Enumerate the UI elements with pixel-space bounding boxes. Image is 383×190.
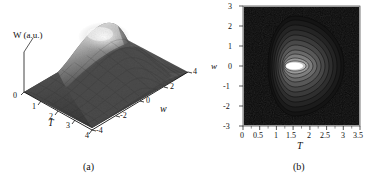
panel-a-surface-plot: W (a.u.) 0 1 2 3 4 T 4 2 0 -2 -4 w (a) [0,0,198,190]
tick-t-15: 1.5 [286,132,296,140]
tick-w-neg1: -1 [223,83,230,91]
panel-a-caption: (a) [83,162,94,172]
tick-w-neg2b: -2 [223,103,230,111]
tick-w-4: 4 [193,68,197,76]
x-axis-label-t-contour: T [297,141,303,150]
panel-b-contour-plot: 3 2 1 0 -1 -2 -3 w 0 0.5 1 1.5 2 2.5 3 3… [198,0,383,190]
tick-t-0: 0 [13,92,17,100]
tick-w-neg3: -3 [223,123,230,131]
tick-t-3b: 3 [341,132,345,140]
tick-w-1: 1 [228,43,232,51]
tick-w-2b: 2 [228,23,232,31]
tick-t-35: 3.5 [353,132,363,140]
tick-t-25: 2.5 [320,132,330,140]
tick-t-4: 4 [85,132,89,140]
figure-root: W (a.u.) 0 1 2 3 4 T 4 2 0 -2 -4 w (a) [0,0,383,190]
tick-w-3: 3 [228,3,232,11]
x-axis-label-t-3d: T [48,118,54,127]
z-axis-label-w-au: W (a.u.) [13,31,43,40]
tick-w-neg2: -2 [120,112,127,120]
y-axis-label-w-contour: w [211,62,217,71]
tick-t-0b: 0 [240,132,244,140]
tick-t-1: 1 [32,103,36,111]
tick-t-3: 3 [66,122,70,130]
tick-t-05: 0.5 [253,132,263,140]
tick-t-1b: 1 [274,132,278,140]
tick-w-0: 0 [146,97,150,105]
tick-w-neg4: -4 [96,127,103,135]
y-axis-label-w-3d: w [160,104,167,113]
panel-b-caption: (b) [293,162,305,172]
tick-t-2b: 2 [307,132,311,140]
tick-w-0b: 0 [228,63,232,71]
tick-w-2: 2 [170,83,174,91]
